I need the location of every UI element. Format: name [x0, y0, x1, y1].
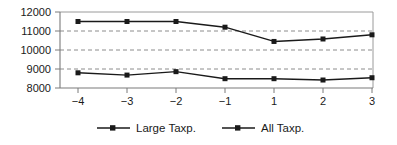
data-point — [125, 19, 130, 24]
data-point — [321, 36, 326, 41]
legend-label-all-taxp: All Taxp. — [261, 122, 304, 134]
data-point — [223, 25, 228, 30]
chart-figure: 12000 11000 10000 9000 8000 −4 −3 −2 −1 … — [0, 0, 397, 145]
x-axis-label-minus3: −3 — [121, 95, 134, 107]
legend-label-large-taxp: Large Taxp. — [136, 122, 196, 134]
x-axis-ticks — [78, 88, 372, 93]
y-axis-labels: 12000 11000 10000 9000 8000 — [20, 6, 51, 94]
data-point — [272, 39, 277, 44]
y-axis-label-10000: 10000 — [20, 44, 51, 56]
x-axis-labels: −4 −3 −2 −1 1 2 3 — [72, 95, 375, 107]
y-axis-label-11000: 11000 — [21, 25, 51, 37]
x-axis-label-1: 1 — [271, 95, 277, 107]
data-point — [223, 76, 228, 81]
line-chart: 12000 11000 10000 9000 8000 −4 −3 −2 −1 … — [0, 0, 397, 145]
data-point — [76, 70, 81, 75]
data-point — [272, 76, 277, 81]
legend-marker-all-taxp — [235, 125, 240, 130]
x-axis-label-3: 3 — [369, 95, 375, 107]
x-axis-label-minus4: −4 — [72, 95, 85, 107]
chart-legend: Large Taxp. All Taxp. — [97, 122, 304, 134]
y-axis-ticks — [55, 12, 60, 88]
x-axis-label-2: 2 — [320, 95, 326, 107]
data-point — [321, 78, 326, 83]
x-axis-label-minus2: −2 — [170, 95, 183, 107]
data-point — [174, 19, 179, 24]
y-axis-label-9000: 9000 — [27, 63, 51, 75]
data-point — [370, 32, 375, 37]
data-point — [125, 73, 130, 78]
y-axis-label-12000: 12000 — [20, 6, 51, 18]
y-axis-label-8000: 8000 — [27, 82, 51, 94]
data-point — [174, 69, 179, 74]
legend-marker-large-taxp — [110, 125, 115, 130]
x-axis-label-minus1: −1 — [219, 95, 232, 107]
data-point — [76, 19, 81, 24]
data-point — [370, 75, 375, 80]
